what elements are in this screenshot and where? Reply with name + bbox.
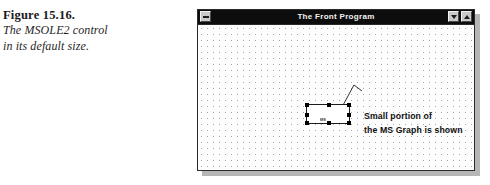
form-designer-canvas[interactable]: MS Small portion of the MS Graph is show… (198, 25, 474, 170)
msole2-control[interactable]: MS (306, 104, 350, 124)
resize-handle-bottom-middle[interactable] (327, 121, 331, 125)
resize-handle-bottom-right[interactable] (347, 121, 351, 125)
system-menu-button[interactable] (200, 11, 211, 22)
resize-handle-middle-right[interactable] (347, 113, 351, 117)
annotation-text: Small portion of the MS Graph is shown (364, 108, 474, 136)
minimize-button[interactable] (448, 11, 459, 22)
window-menu-bar-icon (203, 16, 209, 18)
figure-caption: Figure 15.16. The MSOLE2 control in its … (3, 7, 183, 54)
figure-description-line-1: The MSOLE2 control (3, 23, 183, 39)
window-title: The Front Program (297, 10, 374, 24)
resize-handle-bottom-left[interactable] (305, 121, 309, 125)
resize-handle-top-right[interactable] (347, 103, 351, 107)
resize-handle-middle-left[interactable] (305, 113, 309, 117)
figure-description-line-2: in its default size. (3, 39, 183, 55)
figure-number: Figure 15.16. (3, 7, 183, 23)
maximize-button[interactable] (461, 11, 472, 22)
resize-handle-top-left[interactable] (305, 103, 309, 107)
ole-embedded-label: MS (320, 118, 326, 123)
triangle-up-icon (464, 15, 470, 19)
annotation-line-2: the MS Graph is shown (364, 122, 474, 137)
program-window: The Front Program MS Small portion o (197, 9, 475, 171)
window-title-bar[interactable]: The Front Program (198, 10, 474, 25)
resize-handle-top-middle[interactable] (327, 103, 331, 107)
triangle-down-icon (451, 15, 457, 19)
